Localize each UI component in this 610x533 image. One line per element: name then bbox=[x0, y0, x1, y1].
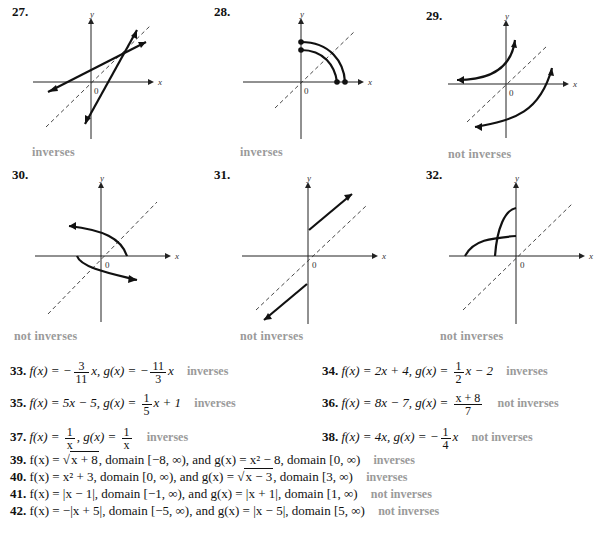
expr: x − 2 bbox=[466, 363, 494, 378]
fraction: 1x bbox=[122, 426, 132, 451]
answer: inverses bbox=[187, 364, 228, 378]
denominator: 7 bbox=[454, 405, 483, 417]
answer-29: not inverses bbox=[448, 147, 511, 162]
denominator: 5 bbox=[142, 405, 152, 417]
problem-number-29: 29. bbox=[426, 8, 442, 24]
graph-27: xy0 bbox=[30, 14, 160, 139]
problem-number: 40. bbox=[10, 469, 26, 484]
graph-32: xy0 bbox=[447, 178, 597, 323]
graph-31: xy0 bbox=[240, 178, 390, 323]
expr: , g(x) = bbox=[77, 429, 120, 444]
answer: inverses bbox=[506, 364, 547, 378]
problem-number: 35. bbox=[10, 395, 26, 410]
problem-number-28: 28. bbox=[214, 4, 230, 20]
problem-number: 39. bbox=[10, 452, 26, 467]
svg-text:y: y bbox=[89, 9, 94, 19]
problem-39: 39. f(x) = √x + 8, domain [−8, ∞), and g… bbox=[10, 452, 415, 468]
graph-30: xy0 bbox=[33, 178, 183, 323]
fraction: 15 bbox=[142, 392, 152, 417]
graph-29: xy0 bbox=[445, 16, 575, 141]
expr: f(x) = 4x, g(x) = − bbox=[342, 429, 439, 444]
problem-number: 37. bbox=[10, 429, 26, 444]
problem-number: 38. bbox=[322, 429, 338, 444]
problem-number: 42. bbox=[10, 503, 26, 518]
denominator: 11 bbox=[74, 373, 90, 385]
svg-text:x: x bbox=[367, 77, 372, 87]
radicand: x − 3 bbox=[244, 468, 273, 484]
svg-text:x: x bbox=[572, 79, 577, 89]
answer: inverses bbox=[366, 470, 407, 484]
svg-text:x: x bbox=[174, 251, 179, 261]
answer-27: inverses bbox=[32, 145, 75, 160]
svg-text:y: y bbox=[299, 9, 304, 19]
expr: f(x) = bbox=[30, 429, 63, 444]
fraction: 311 bbox=[74, 360, 90, 385]
problem-number: 36. bbox=[322, 395, 338, 410]
answer-28: inverses bbox=[240, 145, 283, 160]
problem-40: 40. f(x) = x² + 3, domain [0, ∞), and g(… bbox=[10, 469, 407, 485]
fraction: x + 87 bbox=[454, 392, 483, 417]
expr: f(x) = 5x − 5, g(x) = bbox=[30, 395, 140, 410]
svg-text:0: 0 bbox=[105, 260, 110, 270]
svg-text:0: 0 bbox=[520, 260, 525, 270]
fraction: 14 bbox=[441, 426, 451, 451]
svg-text:x: x bbox=[381, 251, 386, 261]
denominator: 4 bbox=[441, 439, 451, 451]
problem-37: 37. f(x) = 1x, g(x) = 1x inverses bbox=[10, 426, 188, 451]
answer: not inverses bbox=[371, 487, 432, 501]
problem-36: 36. f(x) = 8x − 7, g(x) = x + 87 not inv… bbox=[322, 392, 559, 417]
problem-number: 34. bbox=[322, 363, 338, 378]
problem-number: 41. bbox=[10, 486, 26, 501]
problem-number: 33. bbox=[10, 363, 26, 378]
svg-text:0: 0 bbox=[94, 86, 99, 96]
problem-33: 33. f(x) = −311x, g(x) = −113x inverses bbox=[10, 360, 228, 385]
answer-32: not inverses bbox=[440, 329, 503, 344]
expr: f(x) = 2x + 4, g(x) = bbox=[342, 363, 452, 378]
expr: f(x) = x² + 3, domain [0, ∞), and g(x) = bbox=[30, 469, 238, 484]
denominator: x bbox=[122, 439, 132, 451]
answer: inverses bbox=[194, 396, 235, 410]
denominator: x bbox=[65, 439, 75, 451]
expr: x bbox=[168, 363, 174, 378]
svg-text:x: x bbox=[157, 77, 162, 87]
problem-34: 34. f(x) = 2x + 4, g(x) = 12x − 2 invers… bbox=[322, 360, 548, 385]
svg-text:y: y bbox=[99, 173, 104, 183]
svg-text:0: 0 bbox=[509, 88, 514, 98]
problem-number-27: 27. bbox=[12, 4, 28, 20]
expr: x, g(x) = − bbox=[91, 363, 148, 378]
expr: x bbox=[453, 429, 459, 444]
answer: inverses bbox=[373, 453, 414, 467]
svg-text:y: y bbox=[504, 11, 509, 21]
problem-41: 41. f(x) = |x − 1|, domain [−1, ∞), and … bbox=[10, 486, 432, 502]
problem-35: 35. f(x) = 5x − 5, g(x) = 15x + 1 invers… bbox=[10, 392, 236, 417]
svg-text:y: y bbox=[514, 173, 519, 183]
svg-text:x: x bbox=[588, 251, 593, 261]
svg-text:0: 0 bbox=[312, 260, 317, 270]
svg-text:y: y bbox=[306, 173, 311, 183]
graph-28: xy0 bbox=[240, 14, 370, 139]
expr: , domain [−8, ∞), and g(x) = x² − 8, dom… bbox=[99, 452, 360, 467]
denominator: 3 bbox=[150, 373, 166, 385]
problem-number-32: 32. bbox=[426, 167, 442, 183]
answer-31: not inverses bbox=[240, 329, 303, 344]
problem-38: 38. f(x) = 4x, g(x) = −14x not inverses bbox=[322, 426, 533, 451]
expr: , domain [3, ∞) bbox=[273, 469, 353, 484]
expr: f(x) = bbox=[30, 452, 63, 467]
denominator: 2 bbox=[454, 373, 464, 385]
problem-number-31: 31. bbox=[214, 167, 230, 183]
expr: f(x) = − bbox=[30, 363, 72, 378]
answer: not inverses bbox=[472, 430, 533, 444]
answer: not inverses bbox=[498, 396, 559, 410]
expr: x + 1 bbox=[154, 395, 182, 410]
fraction: 113 bbox=[150, 360, 166, 385]
expr: f(x) = |x − 1|, domain [−1, ∞), and g(x)… bbox=[30, 486, 358, 501]
svg-text:0: 0 bbox=[304, 86, 309, 96]
expr: f(x) = 8x − 7, g(x) = bbox=[342, 395, 452, 410]
answer-30: not inverses bbox=[14, 329, 77, 344]
fraction: 1x bbox=[65, 426, 75, 451]
expr: f(x) = −|x + 5|, domain [−5, ∞), and g(x… bbox=[30, 503, 365, 518]
problem-42: 42. f(x) = −|x + 5|, domain [−5, ∞), and… bbox=[10, 503, 439, 519]
problem-number-30: 30. bbox=[12, 167, 28, 183]
answer: not inverses bbox=[378, 504, 439, 518]
radicand: x + 8 bbox=[70, 451, 99, 467]
